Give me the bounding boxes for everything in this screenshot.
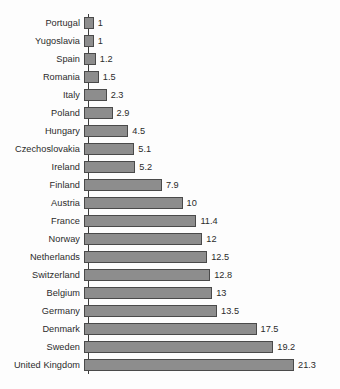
bar	[84, 215, 196, 227]
value-label: 13	[216, 288, 226, 299]
bar	[84, 305, 217, 317]
value-label: 19.2	[277, 342, 295, 353]
value-label: 1	[98, 18, 103, 29]
category-label: Italy	[0, 90, 84, 101]
value-label: 1	[98, 36, 103, 47]
category-label: Hungary	[0, 126, 84, 137]
value-label: 12.5	[211, 252, 229, 263]
bar	[84, 287, 212, 299]
bar-row: Ireland5.2	[0, 158, 340, 176]
category-label: Portugal	[0, 18, 84, 29]
bar-row: Portugal1	[0, 14, 340, 32]
bar	[84, 35, 94, 47]
bar-plot-area: 12.8	[84, 266, 340, 284]
bar-row: United Kingdom21.3	[0, 356, 340, 374]
bar-plot-area: 13	[84, 284, 340, 302]
category-label: Austria	[0, 198, 84, 209]
bar-row: Austria10	[0, 194, 340, 212]
bar	[84, 71, 99, 83]
bar	[84, 107, 113, 119]
bar	[84, 53, 96, 65]
category-label: Yugoslavia	[0, 36, 84, 47]
value-label: 4.5	[132, 126, 145, 137]
bar-row: Norway12	[0, 230, 340, 248]
value-label: 13.5	[221, 306, 239, 317]
bar	[84, 17, 94, 29]
bar	[84, 251, 207, 263]
category-label: Switzerland	[0, 270, 84, 281]
bar-plot-area: 19.2	[84, 338, 340, 356]
bar-plot-area: 1	[84, 14, 340, 32]
value-label: 21.3	[298, 360, 316, 371]
category-label: Finland	[0, 180, 84, 191]
bar-row: France11.4	[0, 212, 340, 230]
value-label: 10	[187, 198, 197, 209]
bar-plot-area: 2.9	[84, 104, 340, 122]
category-label: France	[0, 216, 84, 227]
bar-row: Hungary4.5	[0, 122, 340, 140]
category-label: Czechoslovakia	[0, 144, 84, 155]
category-label: Spain	[0, 54, 84, 65]
bar-plot-area: 12	[84, 230, 340, 248]
bar	[84, 323, 257, 335]
category-label: Belgium	[0, 288, 84, 299]
category-label: Denmark	[0, 324, 84, 335]
value-label: 2.3	[111, 90, 124, 101]
bar-plot-area: 1	[84, 32, 340, 50]
bar-row: Finland7.9	[0, 176, 340, 194]
bar	[84, 341, 273, 353]
bar-plot-area: 1.2	[84, 50, 340, 68]
bar-plot-area: 5.2	[84, 158, 340, 176]
bar	[84, 143, 134, 155]
bar	[84, 197, 183, 209]
bar	[84, 233, 202, 245]
bar-plot-area: 17.5	[84, 320, 340, 338]
bar	[84, 125, 128, 137]
value-label: 1.5	[103, 72, 116, 83]
bar-row: Denmark17.5	[0, 320, 340, 338]
category-label: Romania	[0, 72, 84, 83]
bar-plot-area: 13.5	[84, 302, 340, 320]
bar-row: Netherlands12.5	[0, 248, 340, 266]
bar-plot-area: 7.9	[84, 176, 340, 194]
bar-plot-area: 10	[84, 194, 340, 212]
value-label: 2.9	[117, 108, 130, 119]
bar-row: Spain1.2	[0, 50, 340, 68]
value-label: 12	[206, 234, 216, 245]
bar-plot-area: 12.5	[84, 248, 340, 266]
category-label: United Kingdom	[0, 360, 84, 371]
value-label: 5.1	[138, 144, 151, 155]
bar	[84, 89, 107, 101]
bar-rows: Portugal1Yugoslavia1Spain1.2Romania1.5It…	[0, 14, 340, 374]
value-label: 12.8	[214, 270, 232, 281]
category-label: Poland	[0, 108, 84, 119]
bar-plot-area: 5.1	[84, 140, 340, 158]
bar	[84, 269, 210, 281]
value-label: 11.4	[200, 216, 217, 227]
value-label: 5.2	[139, 162, 152, 173]
bar-plot-area: 2.3	[84, 86, 340, 104]
bar	[84, 359, 294, 371]
bar-row: Italy2.3	[0, 86, 340, 104]
bar-chart: Portugal1Yugoslavia1Spain1.2Romania1.5It…	[0, 0, 340, 389]
bar	[84, 179, 162, 191]
value-label: 7.9	[166, 180, 179, 191]
bar-plot-area: 4.5	[84, 122, 340, 140]
bar-row: Romania1.5	[0, 68, 340, 86]
bar-row: Sweden19.2	[0, 338, 340, 356]
value-label: 1.2	[100, 54, 113, 65]
value-label: 17.5	[261, 324, 279, 335]
bar-row: Belgium13	[0, 284, 340, 302]
category-label: Netherlands	[0, 252, 84, 263]
bar-row: Germany13.5	[0, 302, 340, 320]
bar-row: Switzerland12.8	[0, 266, 340, 284]
bar-row: Poland2.9	[0, 104, 340, 122]
bar	[84, 161, 135, 173]
bar-row: Yugoslavia1	[0, 32, 340, 50]
category-label: Norway	[0, 234, 84, 245]
category-label: Sweden	[0, 342, 84, 353]
category-label: Ireland	[0, 162, 84, 173]
bar-plot-area: 1.5	[84, 68, 340, 86]
bar-plot-area: 21.3	[84, 356, 340, 374]
category-label: Germany	[0, 306, 84, 317]
